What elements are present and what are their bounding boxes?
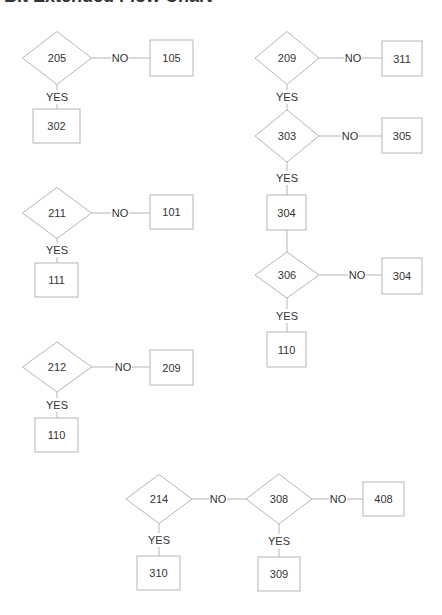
node-label: 209: [162, 362, 180, 374]
edge-label-yes: YES: [276, 172, 298, 184]
node-label: 214: [150, 493, 168, 505]
node-label: 211: [48, 207, 66, 219]
node-label: 304: [277, 207, 295, 219]
flowchart-canvas: 2051053022111011112122091102093113033053…: [0, 0, 442, 615]
decision-node-205: 205: [23, 32, 92, 85]
decision-node-214: 214: [126, 475, 192, 524]
node-label: 310: [149, 567, 167, 579]
node-label: 308: [270, 493, 288, 505]
node-label: 303: [278, 130, 296, 142]
edge-label-no: NO: [210, 493, 227, 505]
process-node-101: 101: [150, 195, 193, 229]
process-node-305: 305: [382, 118, 422, 153]
node-label: 302: [47, 120, 65, 132]
node-label: 205: [48, 52, 66, 64]
node-label: 111: [48, 274, 65, 286]
process-node-311: 311: [382, 41, 422, 76]
edges-layer: [57, 58, 382, 557]
node-label: 306: [278, 269, 296, 281]
process-node-105: 105: [150, 40, 193, 76]
node-label: 105: [162, 52, 180, 64]
process-node-110: 110: [35, 418, 78, 452]
edge-label-no: NO: [112, 207, 129, 219]
decision-node-209: 209: [255, 32, 319, 85]
node-label: 110: [278, 344, 296, 356]
node-label: 304: [393, 270, 411, 282]
process-node-110: 110: [267, 332, 306, 367]
decision-node-306: 306: [255, 252, 319, 298]
edge-label-yes: YES: [268, 535, 290, 547]
edge-label-no: NO: [349, 269, 366, 281]
edge-label-no: NO: [330, 493, 347, 505]
node-label: 408: [374, 493, 392, 505]
edge-label-no: NO: [342, 130, 359, 142]
decision-node-211: 211: [23, 188, 92, 239]
node-label: 311: [393, 53, 411, 65]
process-node-408: 408: [363, 482, 404, 516]
decision-node-308: 308: [246, 474, 312, 524]
edge-label-yes: YES: [46, 91, 68, 103]
edge-label-no: NO: [345, 52, 362, 64]
node-label: 305: [393, 130, 411, 142]
edge-label-yes: YES: [46, 399, 68, 411]
edge-label-yes: YES: [276, 91, 298, 103]
node-label: 110: [48, 429, 66, 441]
node-label: 101: [162, 206, 180, 218]
process-node-304: 304: [267, 195, 306, 230]
decision-node-303: 303: [255, 110, 319, 162]
edge-label-yes: YES: [148, 534, 170, 546]
edge-label-no: NO: [115, 361, 132, 373]
process-node-209: 209: [150, 350, 193, 385]
nodes-layer: 2051053022111011112122091102093113033053…: [23, 32, 423, 592]
process-node-111: 111: [35, 263, 78, 297]
decision-node-212: 212: [23, 342, 92, 392]
edge-labels-layer: NOYESNOYESNOYESNOYESNOYESNOYESNOYESNOYES: [45, 51, 367, 548]
edge-label-yes: YES: [46, 244, 68, 256]
node-label: 212: [48, 361, 66, 373]
edge-label-no: NO: [112, 52, 129, 64]
node-label: 209: [278, 52, 296, 64]
process-node-310: 310: [137, 556, 180, 590]
node-label: 309: [270, 568, 288, 580]
edge-label-yes: YES: [276, 310, 298, 322]
process-node-309: 309: [258, 557, 300, 591]
process-node-302: 302: [33, 109, 80, 143]
process-node-304: 304: [382, 258, 422, 294]
